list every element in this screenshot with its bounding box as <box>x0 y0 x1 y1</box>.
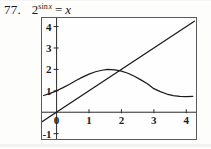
scan-artifact-top <box>0 0 211 1</box>
equation-exponent: sin x <box>38 2 52 11</box>
equation-exponent-variable: x <box>48 2 52 11</box>
curve-identity-line <box>42 21 194 125</box>
textbook-problem-figure: 77. 2sin x=x 01234-11234 <box>0 0 211 149</box>
y-tick-label: -1 <box>42 128 51 139</box>
x-tick-label: 4 <box>184 114 190 126</box>
problem-header: 77. 2sin x=x <box>4 2 71 18</box>
equation-relation: = <box>55 2 62 17</box>
graph-plot: 01234-11234 <box>42 18 196 139</box>
x-tick-label: 0 <box>54 114 60 126</box>
x-tick-label: 3 <box>151 114 157 126</box>
problem-number: 77. <box>4 2 21 18</box>
curve-exponential-sine <box>44 69 193 96</box>
scan-artifact <box>0 144 211 147</box>
equation-exponent-function: sin <box>38 2 47 11</box>
figure-box: 01234-11234 <box>41 17 197 140</box>
x-tick-label: 1 <box>86 114 92 126</box>
curves-group <box>42 21 194 125</box>
problem-equation: 2sin x=x <box>32 2 71 18</box>
equation-right-side: x <box>65 2 71 17</box>
y-tick-label: 3 <box>46 42 52 54</box>
y-tick-label: 4 <box>46 21 52 33</box>
y-tick-label: 2 <box>46 63 52 75</box>
x-tick-label: 2 <box>119 114 125 126</box>
